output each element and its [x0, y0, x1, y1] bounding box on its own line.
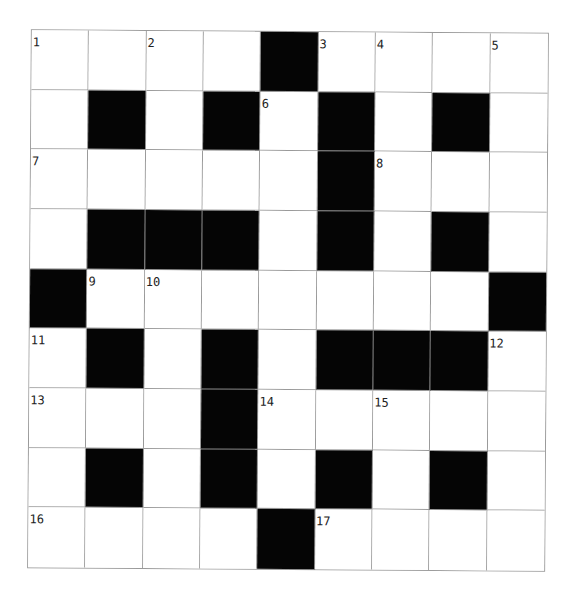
- crossword-cell[interactable]: 17: [315, 510, 373, 570]
- black-square: [430, 451, 488, 511]
- crossword-cell[interactable]: [88, 150, 146, 210]
- clue-number: 15: [374, 397, 389, 409]
- black-square: [316, 331, 374, 391]
- crossword-cell[interactable]: [489, 212, 547, 272]
- clue-number: 7: [32, 156, 39, 168]
- crossword-cell[interactable]: [316, 271, 374, 331]
- clue-number: 4: [377, 39, 384, 51]
- black-square: [432, 93, 490, 153]
- crossword-cell[interactable]: [30, 209, 88, 269]
- crossword-cell[interactable]: 1: [31, 30, 89, 90]
- clue-number: 8: [376, 158, 383, 170]
- crossword-cell[interactable]: 16: [28, 508, 86, 568]
- black-square: [317, 211, 375, 271]
- black-square: [318, 92, 376, 152]
- crossword-cell[interactable]: [258, 449, 316, 509]
- crossword-cell[interactable]: [144, 329, 202, 389]
- crossword-cell[interactable]: [487, 451, 545, 511]
- black-square: [203, 91, 261, 151]
- crossword-cell[interactable]: [202, 270, 260, 330]
- black-square: [201, 449, 259, 509]
- crossword-cell[interactable]: 2: [146, 31, 204, 91]
- clue-number: 6: [262, 97, 269, 109]
- black-square: [30, 269, 88, 329]
- crossword-cell[interactable]: [431, 272, 489, 332]
- crossword-cell[interactable]: [260, 151, 318, 211]
- crossword-cell[interactable]: 11: [29, 329, 87, 389]
- crossword-cell[interactable]: [490, 93, 548, 153]
- crossword-cell[interactable]: [259, 270, 317, 330]
- clue-number: 2: [147, 37, 154, 49]
- crossword-cell[interactable]: 13: [29, 388, 87, 448]
- clue-number: 3: [319, 38, 326, 50]
- black-square: [317, 152, 375, 212]
- black-square: [373, 331, 431, 391]
- crossword-cell[interactable]: [86, 389, 144, 449]
- crossword-cell[interactable]: 6: [260, 91, 318, 151]
- black-square: [201, 330, 259, 390]
- clue-number: 1: [33, 36, 40, 48]
- black-square: [201, 389, 259, 449]
- crossword-cell[interactable]: [433, 33, 491, 93]
- crossword-cell[interactable]: [29, 448, 87, 508]
- crossword-cell[interactable]: [203, 31, 261, 91]
- crossword-cell[interactable]: 5: [490, 33, 548, 93]
- black-square: [431, 331, 489, 391]
- crossword-cell[interactable]: 15: [373, 391, 431, 451]
- crossword-cell[interactable]: 9: [87, 269, 145, 329]
- crossword-cell[interactable]: [374, 271, 432, 331]
- black-square: [261, 32, 319, 92]
- black-square: [432, 212, 490, 272]
- clue-number: 16: [29, 514, 44, 526]
- crossword-cell[interactable]: 8: [375, 152, 433, 212]
- black-square: [86, 448, 144, 508]
- crossword-cell[interactable]: [31, 90, 89, 150]
- crossword-cell[interactable]: 14: [258, 390, 316, 450]
- black-square: [88, 210, 146, 270]
- clue-number: 14: [260, 396, 275, 408]
- clue-number: 9: [88, 275, 95, 287]
- crossword-cell[interactable]: [488, 391, 546, 451]
- black-square: [202, 210, 260, 270]
- crossword-cell[interactable]: [316, 390, 374, 450]
- crossword-cell[interactable]: [143, 449, 201, 509]
- crossword-cell[interactable]: [375, 92, 433, 152]
- crossword-cell[interactable]: [144, 389, 202, 449]
- crossword-cell[interactable]: [373, 450, 431, 510]
- clue-number: 17: [316, 516, 331, 528]
- crossword-cell[interactable]: [145, 150, 203, 210]
- crossword-cell[interactable]: [432, 152, 490, 212]
- black-square: [145, 210, 203, 270]
- clue-number: 10: [146, 276, 161, 288]
- crossword-cell[interactable]: [372, 510, 430, 570]
- crossword-cell[interactable]: 12: [488, 332, 546, 392]
- crossword-grid: 1234567891011121314151617: [27, 29, 549, 572]
- crossword-cell[interactable]: [259, 330, 317, 390]
- clue-number: 11: [31, 335, 46, 347]
- crossword-cell[interactable]: [260, 211, 318, 271]
- crossword-cell[interactable]: [429, 510, 487, 570]
- crossword-cell[interactable]: [85, 508, 143, 568]
- crossword-cell[interactable]: [487, 511, 545, 571]
- clue-number: 13: [30, 394, 45, 406]
- crossword-cell[interactable]: [143, 508, 201, 568]
- crossword-cell[interactable]: [89, 31, 147, 91]
- black-square: [488, 272, 546, 332]
- clue-number: 5: [491, 39, 498, 51]
- crossword-cell[interactable]: 4: [375, 33, 433, 93]
- crossword-cell[interactable]: [489, 153, 547, 213]
- clue-number: 12: [489, 338, 504, 350]
- crossword-cell[interactable]: 7: [31, 150, 89, 210]
- black-square: [88, 90, 146, 150]
- crossword-cell[interactable]: 10: [144, 270, 202, 330]
- black-square: [315, 450, 373, 510]
- black-square: [257, 509, 315, 569]
- crossword-cell[interactable]: [430, 391, 488, 451]
- crossword-cell[interactable]: [203, 151, 261, 211]
- crossword-cell[interactable]: [146, 91, 204, 151]
- crossword-cell[interactable]: 3: [318, 32, 376, 92]
- crossword-cell[interactable]: [200, 509, 258, 569]
- black-square: [87, 329, 145, 389]
- crossword-cell[interactable]: [374, 212, 432, 272]
